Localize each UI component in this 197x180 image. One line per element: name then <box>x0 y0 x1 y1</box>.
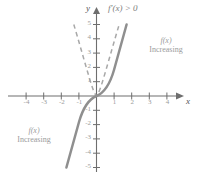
y-tick-label--5: -5 <box>78 163 91 171</box>
y-tick-label-4: 4 <box>79 34 91 42</box>
annotation-lower-left: f(x) Increasing <box>3 126 65 144</box>
annotation-derivative-positive: f′(x) > 0 <box>108 4 188 14</box>
annotation-upper-right: f(x) Increasing <box>137 36 195 54</box>
y-tick-label--1: -1 <box>78 106 91 114</box>
x-tick-label-4: 4 <box>161 99 174 107</box>
y-axis-label: y <box>86 3 90 13</box>
x-tick-label-1: 1 <box>108 99 121 107</box>
y-tick-label-3: 3 <box>79 49 91 57</box>
coordinate-plot <box>0 0 197 180</box>
x-tick-label-3: 3 <box>143 99 156 107</box>
x-tick-label-2: 2 <box>126 99 139 107</box>
x-tick-label--2: -2 <box>55 99 68 107</box>
x-axis-label: x <box>186 96 190 106</box>
annotation-upper-right-fx: f(x) <box>137 36 195 45</box>
y-tick-label--2: -2 <box>78 120 91 128</box>
annotation-lower-left-fx: f(x) <box>3 126 65 135</box>
annotation-lower-left-increasing: Increasing <box>3 135 65 144</box>
annotation-upper-right-increasing: Increasing <box>137 45 195 54</box>
x-axis-arrowhead <box>176 92 184 99</box>
y-tick-label-2: 2 <box>79 63 91 71</box>
x-tick-label--4: -4 <box>20 99 33 107</box>
y-axis-arrowhead <box>93 7 100 14</box>
y-tick-label-1: 1 <box>79 77 91 85</box>
y-tick-label--4: -4 <box>78 149 91 157</box>
y-tick-label-5: 5 <box>79 20 91 28</box>
x-tick-label--3: -3 <box>38 99 51 107</box>
y-tick-label--3: -3 <box>78 134 91 142</box>
graph-figure: -4 -3 -2 -1 1 2 3 4 5 4 3 2 1 -1 -2 -3 -… <box>0 0 197 180</box>
